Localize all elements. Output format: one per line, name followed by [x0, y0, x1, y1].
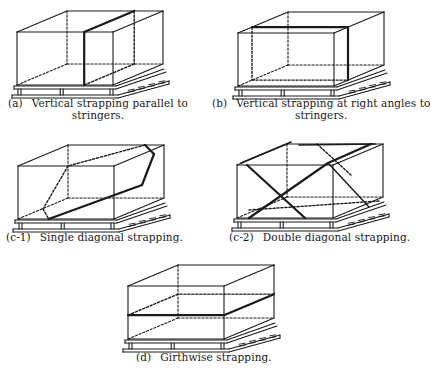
caption-text: Vertical strapping at right angles to: [236, 97, 430, 109]
strap: [224, 294, 274, 315]
caption-a: (a)Vertical strapping parallel to string…: [8, 97, 188, 121]
caption-tag: (a): [8, 97, 23, 109]
caption-text-line2: stringers.: [212, 109, 431, 121]
box-top-face: [128, 265, 178, 286]
caption-text: Single diagonal strapping.: [40, 231, 183, 243]
caption-tag: (d): [136, 351, 151, 363]
caption-c-2: (c-2)Double diagonal strapping.: [229, 231, 410, 243]
caption-c-1: (c-1)Single diagonal strapping.: [6, 231, 183, 243]
caption-tag: (b): [212, 97, 227, 109]
caption-text: Vertical strapping parallel to: [32, 97, 188, 109]
caption-tag: (c-2): [229, 231, 254, 243]
caption-text-line2: stringers.: [8, 109, 188, 121]
caption-text: Girthwise strapping.: [160, 351, 272, 363]
strap-hidden: [128, 294, 178, 315]
caption-b: (b)Vertical strapping at right angles to…: [212, 97, 431, 121]
caption-d: (d)Girthwise strapping.: [136, 351, 272, 363]
box-top-face: [224, 265, 274, 286]
box-hidden-edge: [128, 318, 178, 339]
caption-tag: (c-1): [6, 231, 31, 243]
caption-text: Double diagonal strapping.: [263, 231, 410, 243]
